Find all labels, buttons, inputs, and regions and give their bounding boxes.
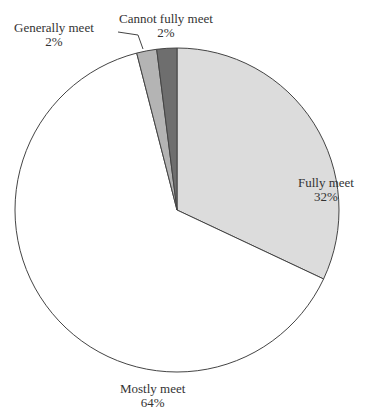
- label-name: Mostly meet: [120, 382, 185, 396]
- label-generally-meet: Generally meet 2%: [14, 21, 94, 49]
- label-cannot-fully-meet: Cannot fully meet 2%: [119, 12, 213, 40]
- pie-chart: [0, 0, 383, 418]
- label-pct: 32%: [298, 190, 354, 204]
- label-fully-meet: Fully meet 32%: [298, 176, 354, 204]
- label-pct: 2%: [119, 26, 213, 40]
- label-name: Cannot fully meet: [119, 12, 213, 26]
- label-name: Fully meet: [298, 176, 354, 190]
- label-pct: 64%: [120, 396, 185, 410]
- label-mostly-meet: Mostly meet 64%: [120, 382, 185, 410]
- label-pct: 2%: [14, 35, 94, 49]
- label-name: Generally meet: [14, 21, 94, 35]
